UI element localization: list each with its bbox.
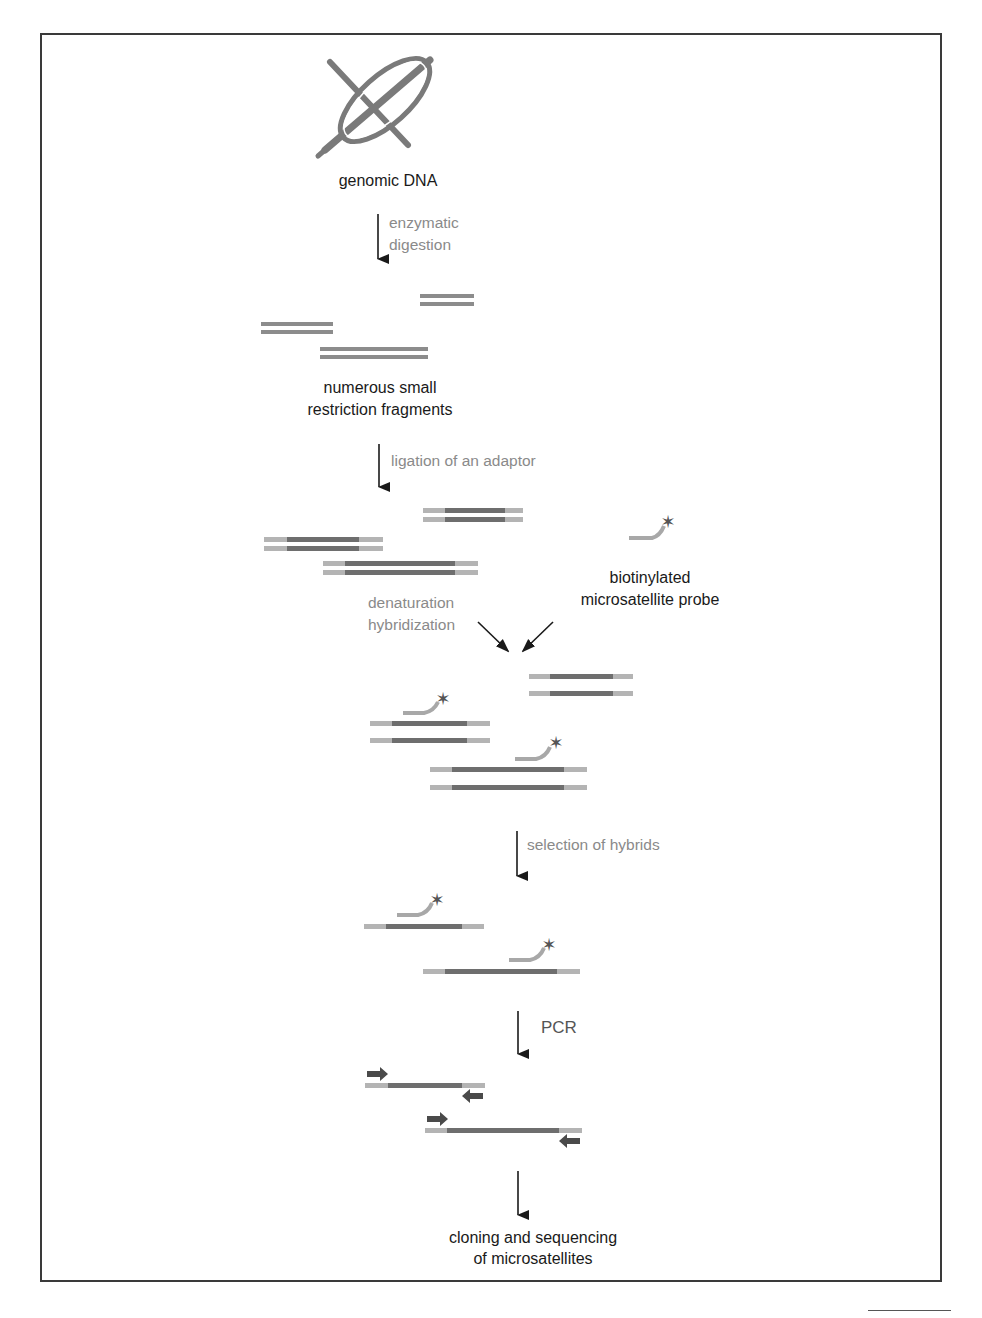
svg-text:✶: ✶	[435, 688, 450, 709]
step-selection: selection of hybrids	[527, 834, 660, 856]
forward-primer-icon	[427, 1112, 448, 1126]
flow-arrow-hybridization-right	[523, 622, 553, 651]
step-digestion-line1: enzymatic	[389, 212, 459, 234]
node-genomic-dna: genomic DNA	[318, 170, 458, 192]
node-final-line1: cloning and sequencing	[423, 1227, 643, 1249]
restriction-fragments	[261, 294, 474, 359]
step-denaturation-line1: denaturation	[368, 592, 454, 614]
step-ligation: ligation of an adaptor	[391, 450, 536, 472]
selected-hybrids: ✶ ✶	[364, 889, 580, 974]
hybridized-fragments: ✶ ✶	[370, 674, 633, 790]
node-fragments-line1: numerous small	[290, 377, 470, 399]
forward-primer-icon	[367, 1067, 388, 1081]
node-final-line2: of microsatellites	[433, 1248, 633, 1270]
node-fragments-line2: restriction fragments	[280, 399, 480, 421]
diagram-canvas: ✶ ✶ ✶ ✶ ✶	[0, 0, 982, 1318]
reverse-primer-icon	[559, 1134, 580, 1148]
node-probe-line1: biotinylated	[560, 567, 740, 589]
node-probe-line2: microsatellite probe	[555, 589, 745, 611]
reverse-primer-icon	[462, 1089, 483, 1103]
step-denaturation-line2: hybridization	[368, 614, 455, 636]
step-pcr: PCR	[541, 1017, 577, 1039]
adaptor-ligated-fragments	[264, 508, 523, 575]
svg-text:✶: ✶	[541, 934, 556, 955]
biotinylated-probe-icon: ✶	[629, 511, 676, 538]
svg-text:✶: ✶	[548, 732, 563, 753]
genomic-dna-icon	[318, 45, 443, 156]
svg-text:✶: ✶	[429, 889, 444, 910]
svg-text:✶: ✶	[660, 511, 675, 532]
pcr-products	[365, 1067, 582, 1148]
flow-arrow-hybridization-left	[478, 622, 508, 651]
step-digestion-line2: digestion	[389, 234, 451, 256]
